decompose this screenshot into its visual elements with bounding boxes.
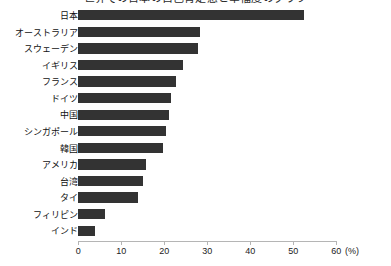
bar-row: 中国 — [0, 107, 391, 124]
bar-row: フィリピン — [0, 207, 391, 224]
x-axis-tick — [250, 241, 251, 245]
x-axis-tick-label: 0 — [58, 246, 98, 256]
plot-area: 日本オーストラリアスウェーデンイギリスフランスドイツ中国シンガポール韓国アメリカ… — [0, 8, 391, 240]
x-axis-tick — [293, 241, 294, 245]
category-label: タイ — [2, 190, 78, 207]
x-axis-tick-label: 10 — [101, 246, 141, 256]
bar-row: アメリカ — [0, 157, 391, 174]
bar — [78, 76, 176, 86]
bar — [78, 110, 168, 120]
category-label: アメリカ — [2, 157, 78, 174]
category-label: フランス — [2, 74, 78, 91]
category-label: インド — [2, 223, 78, 240]
bar-row: シンガポール — [0, 124, 391, 141]
bar — [78, 126, 166, 136]
category-label: 中国 — [2, 107, 78, 124]
bar — [78, 93, 170, 103]
bar — [78, 43, 198, 53]
x-axis-tick-label: 50 — [273, 246, 313, 256]
category-label: 韓国 — [2, 141, 78, 158]
bar-row: イギリス — [0, 58, 391, 75]
bar-row: オーストラリア — [0, 25, 391, 42]
x-axis-tick — [207, 241, 208, 245]
bar-row: スウェーデン — [0, 41, 391, 58]
bar — [78, 192, 138, 202]
category-label: ドイツ — [2, 91, 78, 108]
bar — [78, 143, 162, 153]
bar — [78, 226, 94, 236]
bar — [78, 10, 304, 20]
bar — [78, 176, 143, 186]
bar-row: フランス — [0, 74, 391, 91]
bar-row: 韓国 — [0, 141, 391, 158]
bar — [78, 27, 200, 37]
category-label: シンガポール — [2, 124, 78, 141]
x-axis-tick — [336, 241, 337, 245]
bar — [78, 209, 105, 219]
bar-row: タイ — [0, 190, 391, 207]
category-label: 日本 — [2, 8, 78, 25]
x-axis-tick — [164, 241, 165, 245]
x-axis-tick — [121, 241, 122, 245]
category-label: イギリス — [2, 58, 78, 75]
category-label: 台湾 — [2, 174, 78, 191]
bar-chart-figure: 世界での日本の自己肯定感と幸福度のグラフ 日本オーストラリアスウェーデンイギリス… — [0, 0, 391, 266]
bar-row: 台湾 — [0, 174, 391, 191]
bar-row: インド — [0, 223, 391, 240]
category-label: フィリピン — [2, 207, 78, 224]
x-axis-tick-label: 40 — [230, 246, 270, 256]
bar — [78, 60, 182, 70]
chart-title: 世界での日本の自己肯定感と幸福度のグラフ — [0, 0, 391, 5]
x-axis-tick-label: 30 — [187, 246, 227, 256]
x-axis-tick-label: 20 — [144, 246, 184, 256]
bar-row: ドイツ — [0, 91, 391, 108]
category-label: オーストラリア — [2, 25, 78, 42]
x-axis-unit-label: (%) — [345, 246, 359, 256]
bar-row: 日本 — [0, 8, 391, 25]
category-label: スウェーデン — [2, 41, 78, 58]
bar — [78, 159, 146, 169]
x-axis-tick — [78, 241, 79, 245]
